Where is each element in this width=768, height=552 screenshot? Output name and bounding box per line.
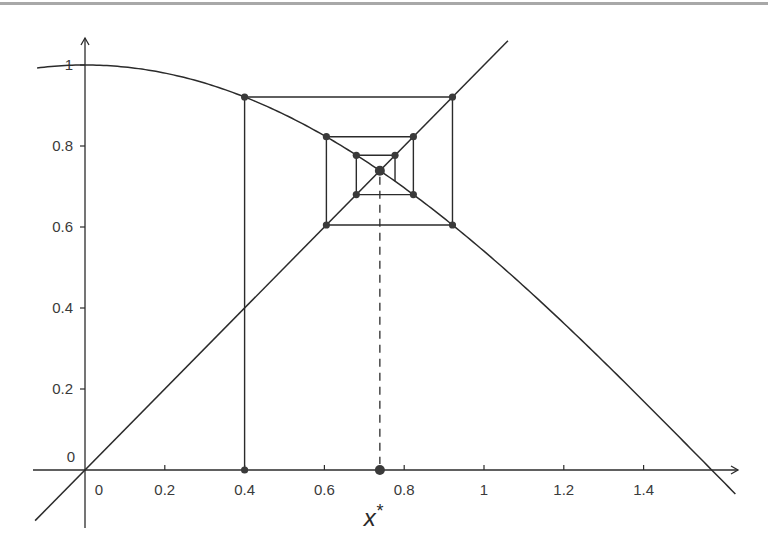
cobweb-point: [353, 191, 360, 198]
fixed-point-label: x*: [363, 501, 384, 531]
x-tick-label: 1: [480, 481, 488, 498]
y-ticks: 00.20.40.60.81: [52, 56, 85, 465]
cobweb-point: [391, 152, 398, 159]
cobweb-point: [241, 466, 248, 473]
y-tick-label: 0.4: [52, 299, 73, 316]
identity-line: [35, 41, 508, 521]
cobweb-point: [323, 221, 330, 228]
x-tick-label: 0.4: [234, 481, 255, 498]
cobweb-point: [353, 152, 360, 159]
cobweb-point: [410, 133, 417, 140]
x-tick-label: 1.4: [633, 481, 654, 498]
cobweb-plot: 00.20.40.60.811.21.4 00.20.40.60.81 x*: [0, 0, 768, 552]
x-tick-label: 0.6: [314, 481, 335, 498]
y-tick-label: 0.2: [52, 380, 73, 397]
x-tick-label: 0.2: [154, 481, 175, 498]
cos-curve: [37, 65, 735, 494]
x-tick-label: 1.2: [553, 481, 574, 498]
y-tick-label: 0.8: [52, 137, 73, 154]
cobweb-point: [410, 191, 417, 198]
x-tick-label: 0.8: [394, 481, 415, 498]
x-tick-label: 0: [95, 481, 103, 498]
cobweb-point: [449, 93, 456, 100]
cobweb-point: [323, 133, 330, 140]
fixed-point-axis-marker: [375, 465, 385, 475]
y-tick-label: 0.6: [52, 218, 73, 235]
cobweb-point: [241, 93, 248, 100]
fixed-point-marker: [375, 166, 385, 176]
cobweb-path: [245, 97, 453, 470]
y-tick-label: 0: [67, 448, 75, 465]
cobweb-point: [449, 221, 456, 228]
